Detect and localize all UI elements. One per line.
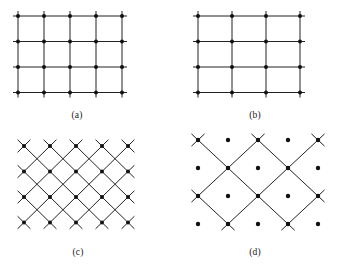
panel-a xyxy=(10,8,145,108)
panel-d-caption: (d) xyxy=(235,247,275,257)
panel-b xyxy=(190,8,325,108)
panel-d xyxy=(188,130,334,240)
panel-a-caption: (a) xyxy=(57,110,97,120)
panel-c-caption: (c) xyxy=(58,247,98,257)
panel-c xyxy=(14,136,154,240)
panel-b-caption: (b) xyxy=(235,110,275,120)
lattice-planes-figure: (a) (b) (c) (d) xyxy=(0,0,352,273)
